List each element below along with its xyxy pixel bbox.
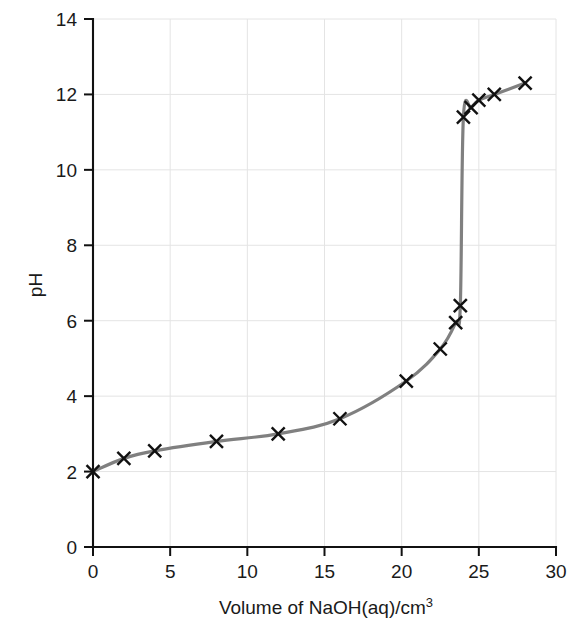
y-tick-label: 12	[56, 84, 77, 105]
y-tick-label: 8	[66, 235, 77, 256]
y-tick-label: 14	[56, 9, 78, 30]
x-tick-label: 25	[468, 561, 489, 582]
titration-chart: 051015202530 02468101214 Volume of NaOH(…	[0, 0, 579, 629]
x-tick-label: 20	[391, 561, 412, 582]
y-tick-label: 2	[66, 462, 77, 483]
x-tick-label: 0	[88, 561, 99, 582]
y-tick-label: 0	[66, 537, 77, 558]
x-tick-label: 15	[314, 561, 335, 582]
y-tick-label: 4	[66, 386, 77, 407]
y-tick-label: 6	[66, 311, 77, 332]
x-axis-title: Volume of NaOH(aq)/cm3	[219, 595, 433, 618]
x-tick-label: 5	[165, 561, 176, 582]
y-tick-label: 10	[56, 160, 77, 181]
y-axis-title: pH	[25, 273, 46, 297]
chart-canvas: 051015202530 02468101214 Volume of NaOH(…	[0, 0, 579, 629]
x-tick-label: 30	[545, 561, 566, 582]
x-tick-label: 10	[237, 561, 258, 582]
